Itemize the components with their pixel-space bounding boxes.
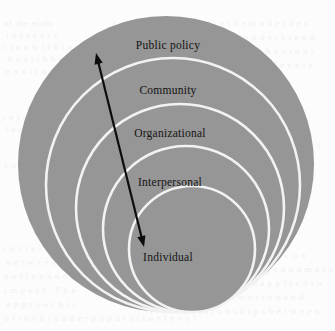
ring-individual[interactable] xyxy=(129,186,255,312)
ring-label-community: Community xyxy=(139,84,196,96)
ring-label-interpersonal: Interpersonal xyxy=(138,176,202,188)
figure-canvas: of the ecoloi n t e r a c tt i o n w i t… xyxy=(0,0,335,331)
ring-label-individual: Individual xyxy=(143,251,193,263)
ring-label-organizational: Organizational xyxy=(134,127,206,139)
ring-stack xyxy=(18,16,314,312)
ring-label-public-policy: Public policy xyxy=(136,39,200,51)
